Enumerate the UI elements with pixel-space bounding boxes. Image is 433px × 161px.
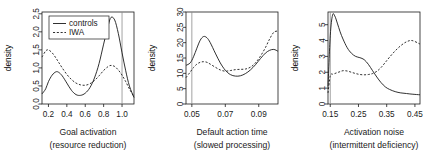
x-tick-labels: 0.20.40.60.81.0 bbox=[43, 110, 128, 119]
plot-frame bbox=[328, 12, 420, 104]
panel-2-canvas: 051015202530 0.050.070.09 density Defaul… bbox=[144, 0, 288, 161]
x-tick-label: 0.35 bbox=[379, 110, 395, 119]
x-tick-label: 1.0 bbox=[116, 110, 128, 119]
y-tick-label: 0.5 bbox=[32, 80, 41, 92]
x-tick-label: 0.07 bbox=[217, 110, 233, 119]
x-tick-label: 0.09 bbox=[251, 110, 267, 119]
y-tick-label: 20 bbox=[176, 38, 185, 48]
x-tick-label: 0.45 bbox=[407, 110, 423, 119]
x-axis-title: Activation noise bbox=[344, 127, 404, 137]
y-tick-label: 1.5 bbox=[32, 44, 41, 56]
y-tick-label: 25 bbox=[176, 22, 185, 32]
x-tick-label: 0.2 bbox=[43, 110, 55, 119]
series-line-controls bbox=[328, 14, 420, 95]
y-tick-label: 0 bbox=[318, 101, 327, 106]
y-tick-label: 4 bbox=[318, 38, 327, 43]
y-axis-title: density bbox=[3, 44, 13, 71]
legend-label-controls: controls bbox=[69, 19, 98, 28]
y-tick-labels: 012345 bbox=[318, 22, 327, 106]
x-tick-label: 0.6 bbox=[80, 110, 92, 119]
y-tick-label: 0.0 bbox=[32, 98, 41, 110]
x-tick-label: 0.05 bbox=[184, 110, 200, 119]
panel-default-action-time: 051015202530 0.050.070.09 density Defaul… bbox=[144, 0, 288, 161]
x-axis-ticks bbox=[48, 104, 122, 107]
y-tick-label: 15 bbox=[176, 53, 185, 63]
legend: controls IWA bbox=[49, 16, 109, 39]
y-tick-label: 2 bbox=[318, 70, 327, 75]
y-axis-title: density bbox=[290, 44, 300, 71]
y-tick-label: 2.5 bbox=[32, 8, 41, 20]
x-tick-label: 0.25 bbox=[351, 110, 367, 119]
panel-1-canvas: 0.00.51.01.52.02.5 0.20.40.60.81.0 densi… bbox=[0, 0, 144, 161]
figure-three-density-panels: 0.00.51.01.52.02.5 0.20.40.60.81.0 densi… bbox=[0, 0, 433, 161]
y-tick-label: 3 bbox=[318, 54, 327, 59]
y-axis-ticks bbox=[325, 25, 328, 104]
y-tick-label: 5 bbox=[176, 86, 185, 91]
x-tick-labels: 0.150.250.350.45 bbox=[322, 110, 423, 119]
panel-goal-activation: 0.00.51.01.52.02.5 0.20.40.60.81.0 densi… bbox=[0, 0, 144, 161]
plot-frame bbox=[186, 12, 278, 104]
x-axis-title: Goal activation bbox=[60, 127, 117, 137]
x-axis-subtitle: (slowed processing) bbox=[194, 140, 271, 150]
x-axis-subtitle: (intermittent deficiency) bbox=[330, 140, 419, 150]
x-axis-ticks bbox=[192, 104, 259, 107]
x-tick-label: 0.4 bbox=[61, 110, 73, 119]
x-axis-title: Default action time bbox=[196, 127, 267, 137]
x-tick-label: 0.8 bbox=[98, 110, 110, 119]
y-tick-label: 5 bbox=[318, 22, 327, 27]
series-line-controls bbox=[186, 36, 278, 76]
y-tick-labels: 0.00.51.01.52.02.5 bbox=[32, 8, 41, 110]
y-axis-title: density bbox=[147, 44, 157, 71]
y-tick-labels: 051015202530 bbox=[176, 7, 185, 106]
y-tick-label: 2.0 bbox=[32, 26, 41, 38]
x-tick-labels: 0.050.070.09 bbox=[184, 110, 267, 119]
y-tick-label: 10 bbox=[176, 68, 185, 78]
y-tick-label: 30 bbox=[176, 7, 185, 17]
y-tick-label: 0 bbox=[176, 101, 185, 106]
x-axis-ticks bbox=[330, 104, 415, 107]
x-axis-subtitle: (resource reduction) bbox=[50, 140, 127, 150]
panel-activation-noise: 012345 0.150.250.350.45 density Activati… bbox=[288, 0, 432, 161]
y-tick-label: 1.0 bbox=[32, 62, 41, 74]
legend-label-iwa: IWA bbox=[69, 28, 85, 37]
y-tick-label: 1 bbox=[318, 85, 327, 90]
panel-3-canvas: 012345 0.150.250.350.45 density Activati… bbox=[288, 0, 433, 161]
series-line-iwa bbox=[328, 40, 420, 92]
x-tick-label: 0.15 bbox=[322, 110, 338, 119]
